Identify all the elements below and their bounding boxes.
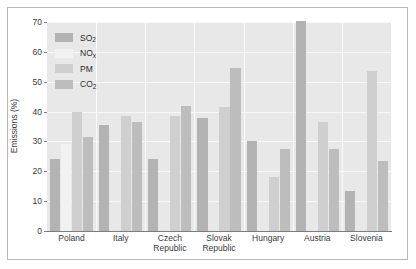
bar (280, 149, 290, 231)
x-axis-category-label: Hungary (252, 234, 284, 244)
bar (269, 177, 279, 231)
bar (72, 112, 82, 231)
plot-area: 010203040506070 (47, 22, 391, 231)
bar-group (96, 22, 145, 231)
y-axis-tick-label: 40 (33, 107, 42, 117)
bar-group (145, 22, 194, 231)
bar (50, 159, 60, 231)
bar (170, 116, 180, 231)
bar (121, 116, 131, 231)
bar (329, 149, 339, 231)
bar-group (244, 22, 293, 231)
legend-item: CO2 (55, 77, 96, 93)
y-axis-tick-mark (44, 231, 47, 232)
legend-swatch (55, 80, 73, 89)
bar (247, 141, 257, 231)
legend-item: PM (55, 61, 96, 77)
bar (345, 191, 355, 231)
legend-label: SO2 (80, 33, 96, 43)
bar (367, 71, 377, 231)
y-axis-tick-label: 10 (33, 196, 42, 206)
legend-label: NOx (80, 48, 96, 58)
chart-legend: SO2NOxPMCO2 (55, 30, 96, 92)
bar (181, 106, 191, 231)
bar (378, 161, 388, 231)
group-separator (194, 22, 195, 231)
group-separator (145, 22, 146, 231)
y-axis-tick-label: 70 (33, 17, 42, 27)
x-axis-line (47, 231, 392, 232)
legend-label: CO2 (80, 79, 96, 89)
x-axis-category-label: Austria (304, 234, 330, 244)
bars-layer (47, 22, 391, 231)
bar (61, 144, 71, 231)
bar (83, 137, 93, 231)
legend-item: NOx (55, 46, 96, 62)
bar (197, 118, 207, 231)
x-axis-category-label: Slovak Republic (202, 234, 235, 253)
y-axis-tick-label: 0 (37, 226, 42, 236)
x-axis-category-label: Slovenia (350, 234, 383, 244)
bar (132, 122, 142, 231)
x-axis-category-label: Poland (58, 234, 84, 244)
x-axis-category-label: Czech Republic (153, 234, 186, 253)
legend-swatch (55, 33, 73, 42)
bar (148, 159, 158, 231)
bar (296, 21, 306, 231)
y-axis-tick-label: 60 (33, 47, 42, 57)
x-axis-category-label: Italy (113, 234, 129, 244)
emissions-bar-chart: Emissions (%) 010203040506070 PolandItal… (0, 0, 416, 269)
bar (230, 68, 240, 231)
bar (219, 107, 229, 231)
bar-group (293, 22, 342, 231)
y-axis-tick-label: 30 (33, 136, 42, 146)
bar-group (342, 22, 391, 231)
legend-label: PM (80, 64, 93, 74)
bar (318, 122, 328, 231)
group-separator (293, 22, 294, 231)
legend-swatch (55, 64, 73, 73)
legend-swatch (55, 49, 73, 58)
legend-item: SO2 (55, 30, 96, 46)
y-axis-title: Emissions (%) (9, 99, 19, 153)
bar (99, 125, 109, 231)
bar-group (194, 22, 243, 231)
group-separator (342, 22, 343, 231)
group-separator (244, 22, 245, 231)
y-axis-tick-label: 20 (33, 166, 42, 176)
y-axis-tick-label: 50 (33, 77, 42, 87)
